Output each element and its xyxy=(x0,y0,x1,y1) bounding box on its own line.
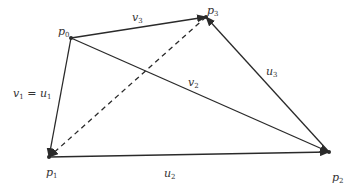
label-p3: p3 xyxy=(207,4,219,18)
edge-v2 xyxy=(71,38,329,152)
label-v2: v2 xyxy=(188,76,199,90)
label-p1: p1 xyxy=(46,166,58,180)
label-v1-equals-u1: v1 = u1 xyxy=(13,87,51,101)
label-p0: p0 xyxy=(58,25,70,39)
edge-v1-u1 xyxy=(49,38,71,157)
label-u2: u2 xyxy=(164,167,176,181)
point-p0-dot xyxy=(69,36,73,40)
label-v3: v3 xyxy=(132,11,143,25)
label-p2: p2 xyxy=(332,171,344,183)
vector-diagram: p0 p1 p2 p3 v3 v2 u3 u2 v1 = u1 xyxy=(0,0,355,183)
edge-u2 xyxy=(49,152,329,157)
point-p1-dot xyxy=(47,155,51,159)
point-p2-dot xyxy=(327,150,331,154)
edge-u3 xyxy=(206,17,329,152)
label-u3: u3 xyxy=(266,65,278,79)
